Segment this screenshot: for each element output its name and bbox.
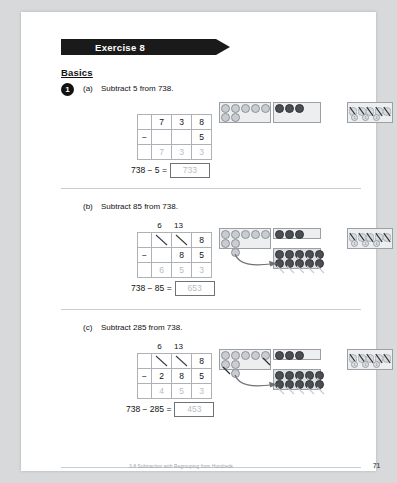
subtrahend-hundreds-b: [152, 248, 172, 263]
hundreds-disc: [221, 230, 230, 239]
result-tens-c: 5: [172, 384, 192, 399]
page-number: 71: [373, 462, 380, 469]
hundreds-disc: [241, 230, 250, 239]
part-prompt-a: Subtract 5 from 738.: [101, 84, 173, 93]
minuend-ones-b: 8: [192, 233, 212, 248]
subtrahend-hundreds-a: [152, 130, 172, 145]
hundreds-disc: [231, 230, 240, 239]
result-ones-a: 3: [192, 145, 212, 160]
hundreds-disc: [231, 113, 240, 122]
op-cell-a2: [138, 145, 152, 160]
cross-out-icon: [296, 381, 303, 388]
minuend-row-b: 8: [138, 233, 212, 248]
minus-operator-b: −: [138, 248, 152, 263]
cross-out-icon: [316, 372, 323, 379]
minuend-tens-c: [172, 354, 192, 369]
cross-out-icon: [306, 260, 313, 267]
tens-disc-regrouped: [315, 380, 324, 389]
strike-hundreds-b: [155, 234, 168, 246]
regroup-tens-b: 13: [169, 221, 188, 230]
section-title: Basics: [61, 67, 93, 78]
banner-arrow-icon: [216, 39, 230, 55]
cross-out-icon: [296, 251, 303, 258]
algorithm-b: 6 13 8 − 8 5 6 5 3: [137, 221, 212, 278]
vertical-sum-a: 7 3 8 − 5 7 3 3: [137, 114, 212, 160]
strike-tens-b: [175, 234, 188, 246]
part-letter-b: (b): [83, 202, 93, 211]
hundreds-disc: [231, 351, 240, 360]
hundreds-disc: [251, 230, 260, 239]
subtrahend-tens-a: [172, 130, 192, 145]
cross-out-icon: [222, 361, 229, 368]
hundreds-disc: [221, 104, 230, 113]
minuend-row-c: 8: [138, 354, 212, 369]
result-tens-a: 3: [172, 145, 192, 160]
ones-disc-remaining: 1: [362, 240, 369, 247]
tens-disc-regrouped: [295, 371, 304, 380]
result-row-a: 7 3 3: [138, 145, 212, 160]
vertical-sum-c: 8 − 2 8 5 4 5 3: [137, 353, 212, 399]
result-row-c: 4 5 3: [138, 384, 212, 399]
result-hundreds-c: 4: [152, 384, 172, 399]
hundreds-disc: [221, 360, 230, 369]
cross-out-icon: [316, 260, 323, 267]
tens-disc: [295, 351, 304, 360]
minuend-hundreds-b: [152, 233, 172, 248]
ones-disc-remaining: 1: [373, 114, 380, 121]
part-letter-c: (c): [83, 323, 92, 332]
result-ones-c: 3: [192, 384, 212, 399]
regroup-tens-c: 13: [169, 342, 188, 351]
regroup-row-c: 6 13: [137, 342, 208, 353]
worksheet-page: Exercise 8 Basics 1 (a) Subtract 5 from …: [21, 12, 376, 471]
result-ones-b: 3: [192, 263, 212, 278]
hundreds-disc: [231, 104, 240, 113]
ones-disc-remaining: 1: [373, 240, 380, 247]
tens-disc-regrouped: [295, 250, 304, 259]
ones-disc-remaining: 1: [362, 361, 369, 368]
tens-disc-regrouped: [315, 371, 324, 380]
op-cell-b1: [138, 233, 152, 248]
subtrahend-row-c: − 2 8 5: [138, 369, 212, 384]
ones-disc-remaining: 1: [351, 240, 358, 247]
hundreds-disc: [241, 104, 250, 113]
regrouping-arrow-icon: [233, 252, 279, 272]
answer-box-c[interactable]: 453: [174, 402, 214, 417]
minuend-tens-a: 3: [172, 115, 192, 130]
cross-out-icon: [286, 381, 293, 388]
subtrahend-hundreds-c: 2: [152, 369, 172, 384]
minuend-hundreds-a: 7: [152, 115, 172, 130]
ones-disc-remaining: 1: [362, 114, 369, 121]
cross-out-icon: [296, 372, 303, 379]
cross-out-icon: [296, 260, 303, 267]
tens-disc: [295, 104, 304, 113]
tens-disc-regrouped: [315, 259, 324, 268]
answer-box-b[interactable]: 653: [175, 281, 215, 296]
algorithm-a: 7 3 8 − 5 7 3 3: [137, 103, 212, 160]
ones-disc-remaining: 1: [373, 361, 380, 368]
tens-disc: [285, 230, 294, 239]
ones-disc-crossed: [383, 229, 391, 242]
cross-out-icon: [316, 251, 323, 258]
hundreds-disc: [221, 239, 230, 248]
op-cell-a1: [138, 115, 152, 130]
hundreds-disc: [241, 351, 250, 360]
result-hundreds-b: 6: [152, 263, 172, 278]
tens-disc: [295, 230, 304, 239]
hundreds-disc: [221, 113, 230, 122]
tens-disc-regrouped: [295, 380, 304, 389]
answer-box-a[interactable]: 733: [170, 163, 210, 178]
result-tens-b: 5: [172, 263, 192, 278]
hundreds-disc: [231, 360, 240, 369]
op-cell-c1: [138, 354, 152, 369]
equation-line-a: 738 − 5 =733: [131, 163, 210, 178]
hundreds-disc: [221, 351, 230, 360]
cross-out-icon: [262, 352, 269, 359]
regroup-hundreds-b: 6: [150, 221, 169, 230]
regrouping-arrow-icon: [233, 373, 279, 393]
ones-disc-remaining: 1: [351, 114, 358, 121]
minus-operator-a: −: [138, 130, 152, 145]
ones-disc-crossed: [383, 103, 391, 116]
footer-text: 3-8 Subtraction with Regrouping from Hun…: [129, 464, 233, 469]
regroup-row-b: 6 13: [137, 221, 208, 232]
tens-disc-regrouped: [315, 250, 324, 259]
